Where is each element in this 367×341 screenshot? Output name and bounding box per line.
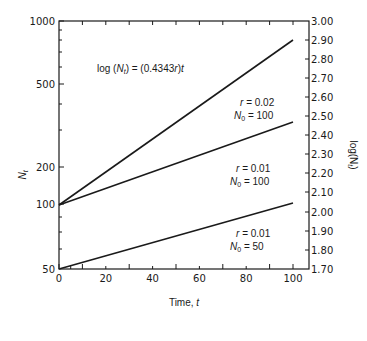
y-left-tick-1000: 1000	[30, 16, 55, 27]
y-left-tick-50: 50	[42, 264, 55, 275]
x-tick-80: 80	[240, 273, 253, 284]
y-right-tick-2.90: 2.90	[311, 35, 333, 46]
y-right-tick-2.10: 2.10	[311, 187, 333, 198]
y-right-axis-tick-labels: 3.00 2.90 2.80 2.70 2.60 2.50 2.40 2.30 …	[311, 16, 333, 275]
y-right-tick-2.40: 2.40	[311, 130, 333, 141]
y-right-tick-3.00: 3.00	[311, 16, 333, 27]
series-label-r001-n100: r = 0.01 N0 = 100	[230, 163, 271, 188]
y-left-tick-100: 100	[36, 199, 55, 210]
y-right-tick-2.50: 2.50	[311, 111, 333, 122]
y-left-axis-tick-labels: 1000 500 200 100 50	[30, 16, 55, 275]
x-tick-100: 100	[283, 273, 302, 284]
y-right-axis-title: log(Nt)	[347, 140, 359, 169]
series-label-r001-n50: r = 0.01 N0 = 50	[230, 228, 271, 253]
y-right-tick-2.30: 2.30	[311, 149, 333, 160]
x-tick-0: 0	[56, 273, 62, 284]
svg-text:r = 0.01: r = 0.01	[236, 228, 271, 239]
y-right-tick-1.80: 1.80	[311, 245, 333, 256]
y-left-axis-title: Nt	[17, 169, 29, 179]
y-right-tick-2.60: 2.60	[311, 92, 333, 103]
svg-text:N0 = 100: N0 = 100	[230, 176, 270, 188]
y-right-tick-2.20: 2.20	[311, 168, 333, 179]
y-right-axis-ticks	[305, 40, 309, 250]
y-right-tick-2.00: 2.00	[311, 207, 333, 218]
y-left-tick-200: 200	[36, 162, 55, 173]
series-label-r002-n100: r = 0.02 N0 = 100	[234, 97, 275, 122]
svg-text:N0 = 50: N0 = 50	[230, 241, 264, 253]
x-axis-ticks	[59, 264, 293, 269]
y-right-tick-2.70: 2.70	[311, 73, 333, 84]
x-tick-20: 20	[99, 273, 112, 284]
population-growth-chart: 0 20 40 60 80 100 Time, t 1000 500 200 1…	[0, 0, 367, 341]
x-axis-tick-labels: 0 20 40 60 80 100	[56, 273, 303, 284]
y-right-tick-2.80: 2.80	[311, 54, 333, 65]
x-tick-40: 40	[146, 273, 159, 284]
x-tick-60: 60	[193, 273, 206, 284]
y-left-axis-ticks	[59, 21, 64, 249]
y-right-tick-1.70: 1.70	[311, 264, 333, 275]
y-right-tick-1.90: 1.90	[311, 226, 333, 237]
y-left-tick-500: 500	[36, 79, 55, 90]
svg-text:r = 0.02: r = 0.02	[240, 97, 275, 108]
plot-frame	[59, 21, 309, 269]
svg-text:N0 = 100: N0 = 100	[234, 110, 274, 122]
equation-annotation: log (Nt) = (0.4343r)t	[97, 63, 185, 75]
x-axis-title: Time, t	[169, 297, 200, 308]
svg-text:r = 0.01: r = 0.01	[236, 163, 271, 174]
